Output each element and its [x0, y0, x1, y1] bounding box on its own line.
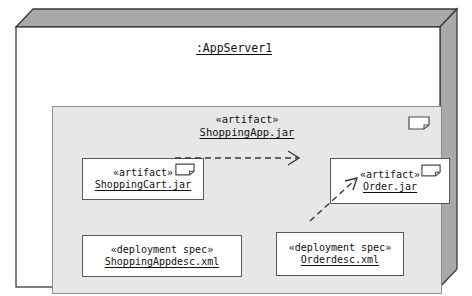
deployment-spec-orderdesc-xml-stereotype: «deployment spec»	[289, 242, 391, 254]
deployment-spec-orderdesc-xml-name: Orderdesc.xml	[289, 254, 391, 266]
deployment-spec-shoppingappdesc-xml[interactable]: «deployment spec» ShoppingAppdesc.xml	[82, 235, 242, 277]
artifact-shoppingapp-jar-label: «artifact» ShoppingApp.jar	[53, 113, 441, 139]
deployment-spec-shoppingappdesc-xml-name: ShoppingAppdesc.xml	[105, 256, 219, 268]
artifact-shoppingcart-jar-name: ShoppingCart.jar	[95, 179, 191, 191]
diagram-canvas: :AppServer1 «artifact» ShoppingApp.jar «…	[0, 0, 472, 296]
artifact-order-jar-name: Order.jar	[360, 181, 420, 193]
node-face: :AppServer1 «artifact» ShoppingApp.jar «…	[30, 27, 438, 282]
artifact-shoppingapp-jar-stereotype: «artifact»	[53, 113, 441, 126]
artifact-order-jar-stereotype: «artifact»	[360, 169, 420, 181]
deployment-spec-shoppingappdesc-xml-label: «deployment spec» ShoppingAppdesc.xml	[105, 244, 219, 268]
artifact-page-icon	[175, 163, 195, 176]
artifact-page-icon	[421, 164, 441, 177]
deployment-node-appserver1[interactable]: :AppServer1 «artifact» ShoppingApp.jar «…	[14, 7, 458, 289]
deployment-spec-shoppingappdesc-xml-stereotype: «deployment spec»	[105, 244, 219, 256]
artifact-shoppingcart-jar[interactable]: «artifact» ShoppingCart.jar	[82, 158, 204, 200]
node-title: :AppServer1	[30, 41, 438, 55]
artifact-order-jar[interactable]: «artifact» Order.jar	[330, 158, 450, 204]
artifact-shoppingapp-jar-name: ShoppingApp.jar	[53, 126, 441, 139]
deployment-spec-orderdesc-xml-label: «deployment spec» Orderdesc.xml	[289, 242, 391, 266]
deployment-spec-orderdesc-xml[interactable]: «deployment spec» Orderdesc.xml	[276, 232, 404, 276]
artifact-page-icon	[408, 116, 430, 130]
artifact-order-jar-label: «artifact» Order.jar	[360, 169, 420, 193]
